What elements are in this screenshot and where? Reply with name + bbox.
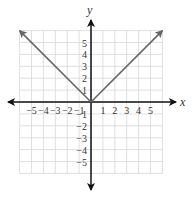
x-tick-label: −3 [50,105,61,116]
x-tick-label: 3 [124,105,129,116]
y-tick-label: −1 [76,109,87,120]
y-tick-label: 4 [82,49,87,60]
y-tick-label: 2 [82,73,87,84]
y-axis-label: y [86,3,93,17]
y-tick-label: −2 [76,121,87,132]
y-tick-label: −5 [76,157,87,168]
y-tick-label: −3 [76,133,87,144]
x-axis-label: x [179,95,186,109]
x-tick-label: −5 [26,105,37,116]
y-tick-label: 5 [82,38,87,49]
x-tick-labels: −5−4−3−2−112345 [26,105,153,116]
coordinate-graph: x y −5−4−3−2−112345 54321−1−2−3−4−5 [0,0,193,198]
y-tick-label: −4 [76,145,87,156]
x-tick-label: 1 [100,105,105,116]
y-tick-label: 3 [82,61,87,72]
x-tick-label: 2 [112,105,117,116]
x-tick-label: 5 [148,105,153,116]
x-tick-label: −4 [38,105,49,116]
x-tick-label: −2 [62,105,73,116]
x-tick-label: 4 [136,105,141,116]
